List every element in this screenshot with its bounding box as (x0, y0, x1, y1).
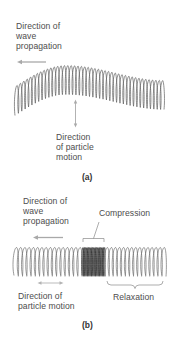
label-line: Direction (56, 132, 94, 142)
particle-motion-label-b: Direction of particle motion (18, 291, 75, 311)
label-line: propagation (16, 41, 62, 51)
panel-label-a: (a) (82, 172, 92, 182)
label-line: particle motion (18, 301, 75, 311)
relaxation-bracket (107, 281, 163, 289)
compression-label: Compression (99, 208, 150, 218)
longitudinal-wave-spring (13, 248, 166, 277)
panel-label-b: (b) (82, 320, 93, 330)
wave-propagation-label-a: Direction of wave propagation (16, 21, 62, 51)
label-line: Direction of (23, 196, 69, 206)
wave-propagation-arrow-a (17, 60, 46, 64)
particle-motion-label-a: Direction of particle motion (56, 132, 94, 162)
label-line: Direction of (16, 21, 62, 31)
label-line: Direction of (18, 291, 75, 301)
particle-motion-arrow-b (38, 281, 64, 284)
label-line: wave (16, 31, 62, 41)
wave-diagram-graphics (0, 0, 177, 341)
compression-bracket (83, 222, 104, 242)
particle-motion-arrow-a (74, 100, 77, 128)
label-line: propagation (23, 216, 69, 226)
label-line: motion (56, 152, 94, 162)
transverse-wave-spring (14, 66, 164, 116)
label-line: wave (23, 206, 69, 216)
label-line: of particle (56, 142, 94, 152)
relaxation-label: Relaxation (113, 292, 154, 302)
wave-propagation-arrow-b (33, 235, 63, 239)
wave-propagation-label-b: Direction of wave propagation (23, 196, 69, 226)
